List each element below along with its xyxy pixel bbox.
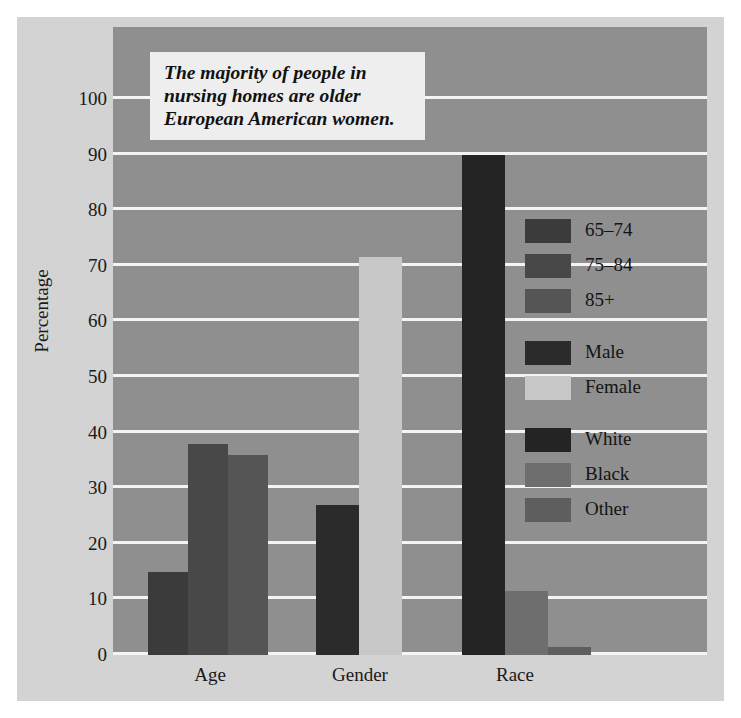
bar-white	[462, 155, 505, 655]
y-axis-tick-label: 10	[61, 589, 107, 608]
legend-label: Black	[585, 460, 629, 489]
x-axis-tick-age: Age	[150, 664, 270, 686]
legend-swatch	[525, 219, 571, 243]
x-axis-tick-gender: Gender	[300, 664, 420, 686]
legend-item: Other	[525, 495, 690, 530]
y-axis-tick-label: 90	[61, 145, 107, 164]
y-axis-tick-label: 80	[61, 200, 107, 219]
legend-label: 75–84	[585, 251, 633, 280]
legend-label: Female	[585, 373, 641, 402]
callout-note-text: The majority of people in nursing homes …	[164, 61, 413, 130]
legend-swatch	[525, 428, 571, 452]
legend-item: Black	[525, 460, 690, 495]
bar-75-84	[188, 444, 228, 655]
y-axis-tick-label: 40	[61, 423, 107, 442]
y-axis-title: Percentage	[31, 231, 53, 391]
legend-swatch	[525, 498, 571, 522]
x-axis-tick-race: Race	[455, 664, 575, 686]
bar-female	[359, 257, 402, 655]
callout-note: The majority of people in nursing homes …	[150, 52, 425, 140]
y-axis-tick-label: 30	[61, 478, 107, 497]
legend: 65–7475–8485+MaleFemaleWhiteBlackOther	[525, 216, 690, 530]
legend-label: Male	[585, 338, 624, 367]
bar-male	[316, 505, 359, 655]
gridline	[113, 152, 707, 155]
legend-item: 65–74	[525, 216, 690, 251]
y-axis-tick-label: 0	[61, 645, 107, 664]
y-axis-tick-label: 100	[61, 89, 107, 108]
legend-item: Male	[525, 338, 690, 373]
bar-black	[505, 591, 548, 655]
legend-swatch	[525, 289, 571, 313]
legend-swatch	[525, 341, 571, 365]
legend-label: 85+	[585, 286, 615, 315]
legend-item: 85+	[525, 286, 690, 321]
legend-swatch	[525, 376, 571, 400]
legend-item: Female	[525, 373, 690, 408]
legend-item: 75–84	[525, 251, 690, 286]
bar-65-74	[148, 572, 188, 655]
y-axis-tick-label: 70	[61, 256, 107, 275]
y-axis-tick-label: 50	[61, 367, 107, 386]
figure: 1009080706050403020100 Percentage The ma…	[0, 0, 741, 718]
y-axis-ticks: 1009080706050403020100	[47, 27, 107, 655]
legend-label: 65–74	[585, 216, 633, 245]
legend-label: Other	[585, 495, 628, 524]
legend-item: White	[525, 425, 690, 460]
legend-label: White	[585, 425, 631, 454]
y-axis-tick-label: 60	[61, 311, 107, 330]
bar-85	[228, 455, 268, 655]
bar-other	[548, 647, 591, 655]
y-axis-tick-label: 20	[61, 534, 107, 553]
legend-swatch	[525, 254, 571, 278]
gridline	[113, 207, 707, 210]
legend-swatch	[525, 463, 571, 487]
